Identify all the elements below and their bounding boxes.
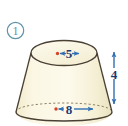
- problem-number-text: 1: [13, 24, 19, 38]
- top-diameter-label: 5: [66, 46, 73, 61]
- height-label: 4: [111, 67, 118, 82]
- bottom-diameter-label: 8: [66, 102, 73, 117]
- bottom-center-dot-icon: [54, 107, 57, 110]
- geometry-figure-panel: 5 8 4 1: [0, 0, 128, 126]
- top-center-dot-icon: [56, 52, 59, 55]
- frustum-bottom-face: [16, 98, 112, 126]
- frustum-diagram: 5 8 4 1: [0, 0, 128, 126]
- height-measure: 4: [111, 52, 118, 104]
- problem-number-badge: 1: [7, 22, 23, 38]
